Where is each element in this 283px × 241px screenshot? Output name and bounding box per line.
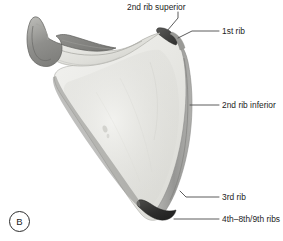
leader-2nd-rib-superior [167, 12, 178, 31]
annotation-label-1st-rib: 1st rib [222, 26, 245, 36]
annotation-label-3rd-rib: 3rd rib [222, 192, 246, 202]
annotation-label-2nd-rib-superior: 2nd rib superior [127, 2, 186, 12]
scapula-illustration [0, 0, 283, 241]
leader-1st-rib [178, 31, 219, 38]
panel-letter-badge: B [9, 211, 30, 232]
annotation-label-4th-8th-9th-ribs: 4th–8th/9th ribs [222, 214, 280, 224]
annotation-label-2nd-rib-inferior: 2nd rib inferior [222, 100, 276, 110]
fossa-speckle [107, 134, 110, 138]
leader-3rd-rib [180, 191, 219, 197]
figure-panel: 2nd rib superior 1st rib 2nd rib inferio… [0, 0, 283, 241]
